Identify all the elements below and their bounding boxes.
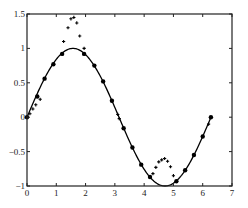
plus-marker — [78, 34, 81, 37]
dot-marker — [209, 115, 213, 119]
dot-marker — [92, 63, 96, 67]
y-tick-label: −0.5 — [9, 147, 26, 157]
plus-marker — [62, 40, 65, 43]
plus-marker — [172, 174, 175, 177]
dot-marker — [139, 162, 143, 166]
dot-marker — [35, 94, 39, 98]
dot-marker — [183, 168, 187, 172]
plus-marker — [151, 172, 154, 175]
dot-marker — [130, 145, 134, 149]
dot-marker — [82, 52, 86, 56]
dot-marker — [110, 98, 114, 102]
dot-marker — [201, 134, 205, 138]
data-layer — [25, 16, 213, 186]
y-tick-label: 0 — [21, 112, 26, 122]
plus-marker — [66, 26, 69, 29]
plus-marker — [160, 158, 163, 161]
dot-marker — [174, 179, 178, 183]
dot-marker — [192, 153, 196, 157]
plus-marker — [34, 103, 37, 106]
x-tick-label: 3 — [113, 188, 118, 198]
plus-marker — [39, 98, 42, 101]
dot-marker — [101, 79, 105, 83]
plus-marker — [69, 17, 72, 20]
plus-marker — [31, 107, 34, 110]
dot-marker — [60, 52, 64, 56]
plus-marker — [75, 21, 78, 24]
x-tick-label: 4 — [142, 188, 147, 198]
x-tick-label: 5 — [171, 188, 176, 198]
axes-frame — [27, 14, 232, 186]
sine-chart: 01234567−1−0.500.511.5 — [0, 0, 248, 208]
axes: 01234567−1−0.500.511.5 — [9, 9, 235, 198]
plus-marker — [83, 47, 86, 50]
dot-marker — [42, 76, 46, 80]
dot-marker — [148, 175, 152, 179]
y-tick-label: 1 — [21, 43, 26, 53]
x-tick-label: 6 — [200, 188, 205, 198]
y-tick-label: 1.5 — [14, 9, 26, 19]
x-tick-label: 1 — [54, 188, 59, 198]
plus-marker — [166, 160, 169, 163]
x-tick-label: 0 — [25, 188, 30, 198]
plus-marker — [154, 166, 157, 169]
plus-marker — [163, 157, 166, 160]
y-tick-label: −1 — [15, 181, 25, 191]
x-tick-label: 2 — [83, 188, 88, 198]
y-tick-label: 0.5 — [14, 78, 26, 88]
dot-marker — [121, 126, 125, 130]
plus-marker — [72, 16, 75, 19]
plus-marker — [169, 165, 172, 168]
plus-marker — [157, 160, 160, 163]
x-tick-label: 7 — [230, 188, 235, 198]
dot-marker — [51, 62, 55, 66]
